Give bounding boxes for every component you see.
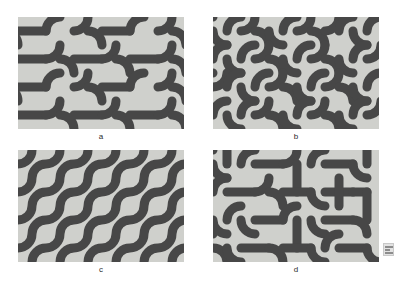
watermark-line-1 — [385, 246, 393, 248]
panel-a-image — [18, 17, 184, 129]
panel-c-label: c — [18, 265, 184, 275]
panel-c-image — [18, 150, 184, 262]
watermark-line-3 — [385, 252, 393, 254]
panel-b-label: b — [213, 132, 379, 142]
panel-b-image — [213, 17, 379, 129]
panel-a-label: a — [18, 132, 184, 142]
watermark-badge-icon — [383, 243, 394, 256]
panel-d-label: d — [213, 265, 379, 275]
figure-panel-grid: a — [0, 0, 398, 285]
watermark-line-2 — [385, 249, 390, 251]
panel-d-image — [213, 150, 379, 262]
